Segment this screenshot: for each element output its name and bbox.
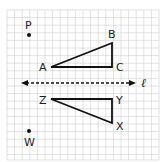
label-a: A <box>39 61 47 74</box>
point-w: W <box>24 129 35 149</box>
point-w-dot <box>27 129 31 133</box>
triangle-zyx: Z Y X <box>39 94 124 133</box>
point-p: P <box>25 19 32 37</box>
label-c: C <box>116 61 124 74</box>
arrow-right-icon <box>129 80 136 86</box>
triangle-abc: A B C <box>39 28 124 74</box>
label-y: Y <box>115 94 123 107</box>
label-z: Z <box>39 94 47 107</box>
line-label: ℓ <box>141 76 146 90</box>
label-w: W <box>24 136 35 149</box>
label-p: P <box>25 19 32 32</box>
reflection-diagram: ℓ A B C Z Y X P W <box>0 0 167 162</box>
point-p-dot <box>27 33 31 37</box>
label-x: X <box>116 120 124 133</box>
label-b: B <box>108 28 116 41</box>
